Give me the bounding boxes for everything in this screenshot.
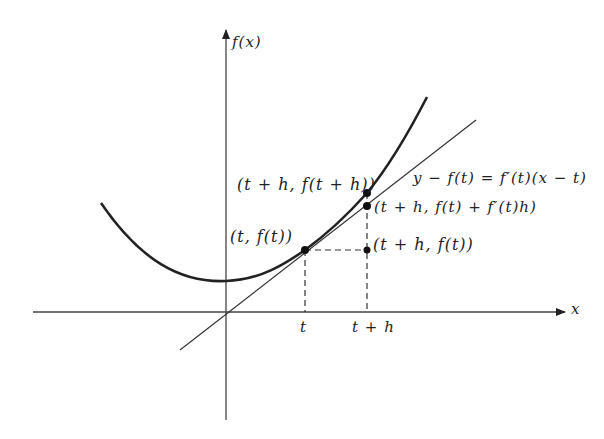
point-t — [301, 246, 309, 254]
x-axis-label: x — [571, 302, 580, 317]
point-t-h-tangent — [363, 202, 371, 210]
tick-label-t: t — [300, 320, 307, 335]
label-point-t-h-tangent: (t + h, f(t) + f′(t)h) — [374, 200, 537, 215]
label-point-t: (t, f(t)) — [230, 229, 293, 245]
point-t-h-flat — [364, 247, 371, 254]
label-point-t-h-flat: (t + h, f(t)) — [373, 237, 474, 253]
tick-label-t-plus-h: t + h — [352, 320, 395, 335]
y-axis-label: f(x) — [232, 35, 262, 50]
label-point-t-h-curve: (t + h, f(t + h)) — [237, 177, 376, 193]
tangent-equation-label: y − f(t) = f′(t)(x − t) — [413, 171, 587, 186]
diagram-canvas — [0, 0, 604, 439]
